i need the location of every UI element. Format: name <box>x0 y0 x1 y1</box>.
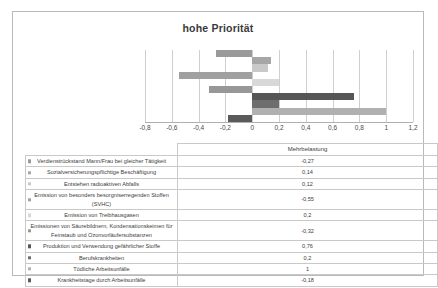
x-tick-label: -0,8 <box>139 124 150 131</box>
table-cell-label: Entstehen radioaktiven Abfalls <box>26 178 178 189</box>
bar <box>252 64 268 71</box>
x-tick-label: 0,8 <box>355 124 364 131</box>
table-cell-value: 0,2 <box>178 209 438 220</box>
x-tick-label: -0,6 <box>166 124 177 131</box>
table-row: Tödliche Arbeitsunfälle1 <box>26 263 438 274</box>
x-axis-tick-labels: -0,8-0,6-0,4-0,200,20,40,60,811,2 <box>145 124 413 136</box>
legend-swatch-icon <box>28 245 31 248</box>
bar-series <box>145 50 413 122</box>
table-row: Emissionen von Säurebildnern, Kondensati… <box>26 221 438 241</box>
legend-swatch-icon <box>28 229 31 232</box>
table-cell-label: Krankheitstage durch Arbeitsunfälle <box>26 275 178 286</box>
table-cell-label: Sozialversicherungspflichtige Beschäftig… <box>26 167 178 178</box>
table-row-label: Produktion und Verwendung gefährlicher S… <box>43 243 160 249</box>
chart-title: hohe Priorität <box>13 22 423 34</box>
x-tick-label: 1,2 <box>408 124 417 131</box>
bar-row <box>145 115 413 122</box>
x-tick-label: 0,4 <box>301 124 310 131</box>
legend-swatch-icon <box>28 171 31 174</box>
bar <box>252 108 386 115</box>
legend-swatch-icon <box>28 182 31 185</box>
table-row-label: Krankheitstage durch Arbeitsunfälle <box>57 277 145 283</box>
legend-swatch-icon <box>28 213 31 216</box>
table-row-label: Entstehen radioaktiven Abfalls <box>64 181 139 187</box>
legend-swatch-icon <box>28 279 31 282</box>
table-row: Emission von besonders besorgniserregend… <box>26 190 438 210</box>
table-cell-label: Emission von Treibhausgasen <box>26 209 178 220</box>
data-table: Mehrbelastung Verdienstrückstand Mann/Fr… <box>25 143 438 287</box>
x-axis-line <box>145 122 413 123</box>
table-cell-label: Emissionen von Säurebildnern, Kondensati… <box>26 221 178 241</box>
bar-row <box>145 86 413 93</box>
bar-row <box>145 57 413 64</box>
table-header-row: Mehrbelastung <box>26 144 438 156</box>
table-row-label: Berufskrankheiten <box>79 255 124 261</box>
table-row: Verdienstrückstand Mann/Frau bei gleiche… <box>26 156 438 167</box>
bar-row <box>145 72 413 79</box>
plot-area <box>145 50 413 122</box>
chart-container: hohe Priorität -0,8-0,6-0,4-0,200,20,40,… <box>12 11 424 276</box>
bar-row <box>145 100 413 107</box>
table-row-label: Tödliche Arbeitsunfälle <box>73 266 129 272</box>
table-cell-label: Tödliche Arbeitsunfälle <box>26 263 178 274</box>
table-cell-label: Verdienstrückstand Mann/Frau bei gleiche… <box>26 156 178 167</box>
table-cell-value: -0,55 <box>178 190 438 210</box>
table-row-label: Emission von Treibhausgasen <box>64 212 139 218</box>
table-cell-label: Emission von besonders besorgniserregend… <box>26 190 178 210</box>
table-cell-value: 1 <box>178 263 438 274</box>
table-cell-value: -0,27 <box>178 156 438 167</box>
table-row-label: Emission von besonders besorgniserregend… <box>34 192 169 206</box>
bar-row <box>145 93 413 100</box>
legend-swatch-icon <box>28 256 31 259</box>
legend-swatch-icon <box>28 159 31 162</box>
table-row: Krankheitstage durch Arbeitsunfälle-0,18 <box>26 275 438 286</box>
bar <box>216 50 252 57</box>
table-cell-value: -0,18 <box>178 275 438 286</box>
legend-swatch-icon <box>28 267 31 270</box>
table-header-mehrbelastung: Mehrbelastung <box>178 144 438 156</box>
x-tick-label: -0,4 <box>193 124 204 131</box>
bar-row <box>145 108 413 115</box>
table-header-blank <box>26 144 178 156</box>
legend-swatch-icon <box>28 198 31 201</box>
table-row-label: Sozialversicherungspflichtige Beschäftig… <box>47 169 156 175</box>
bar <box>252 93 354 100</box>
gridline <box>413 50 414 122</box>
x-tick-label: -0,2 <box>220 124 231 131</box>
table-row: Berufskrankheiten0,2 <box>26 252 438 263</box>
bar-row <box>145 79 413 86</box>
table-body: Verdienstrückstand Mann/Frau bei gleiche… <box>26 156 438 287</box>
bar-row <box>145 64 413 71</box>
bar <box>252 100 279 107</box>
table-row: Entstehen radioaktiven Abfalls0,12 <box>26 178 438 189</box>
table-cell-value: 0,76 <box>178 241 438 252</box>
table-cell-value: 0,14 <box>178 167 438 178</box>
x-tick-label: 1 <box>384 124 388 131</box>
table-row: Produktion und Verwendung gefährlicher S… <box>26 241 438 252</box>
bar <box>252 79 279 86</box>
bar <box>252 57 271 64</box>
x-tick-label: 0,2 <box>274 124 283 131</box>
table-row: Sozialversicherungspflichtige Beschäftig… <box>26 167 438 178</box>
table-cell-value: 0,2 <box>178 252 438 263</box>
bar <box>228 115 252 122</box>
table-row: Emission von Treibhausgasen0,2 <box>26 209 438 220</box>
x-tick-label: 0,6 <box>328 124 337 131</box>
table-row-label: Emissionen von Säurebildnern, Kondensati… <box>30 223 172 237</box>
table-cell-label: Produktion und Verwendung gefährlicher S… <box>26 241 178 252</box>
table-cell-value: 0,12 <box>178 178 438 189</box>
x-tick-label: 0 <box>250 124 254 131</box>
table-cell-value: -0,32 <box>178 221 438 241</box>
table-row-label: Verdienstrückstand Mann/Frau bei gleiche… <box>37 158 166 164</box>
table-cell-label: Berufskrankheiten <box>26 252 178 263</box>
bar <box>209 86 252 93</box>
bar <box>179 72 253 79</box>
bar-row <box>145 50 413 57</box>
